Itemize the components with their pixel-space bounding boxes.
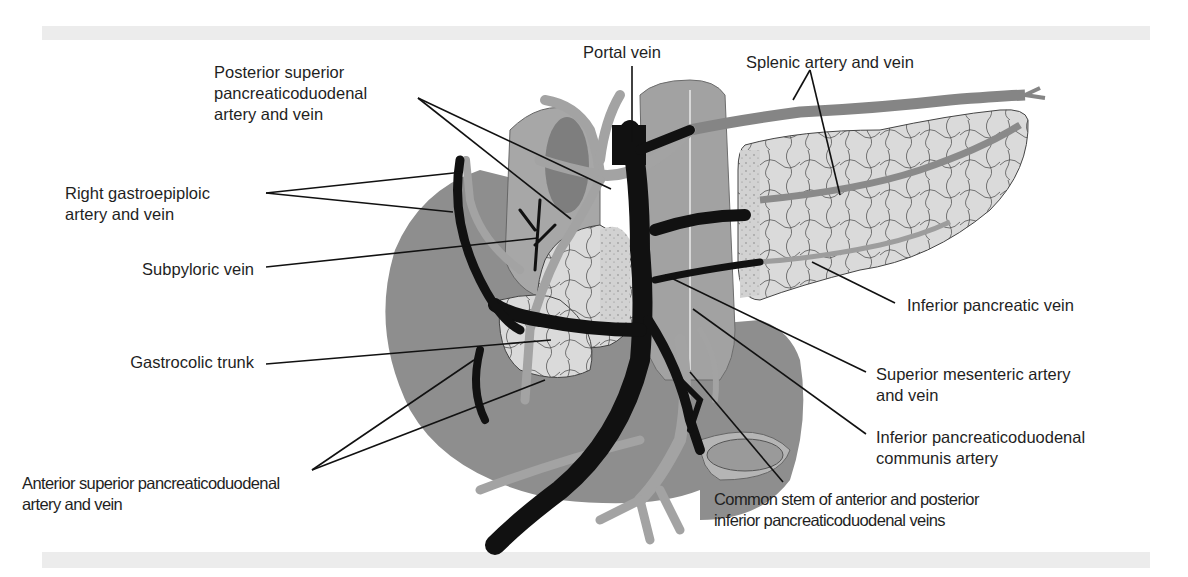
label-common-stem: Common stem of anterior and posterior in… <box>714 489 979 531</box>
label-gastrocolic-trunk: Gastrocolic trunk <box>90 352 254 373</box>
label-portal-vein: Portal vein <box>583 42 661 63</box>
label-right-gastroepiploic: Right gastroepiploic artery and vein <box>65 183 210 225</box>
pancreas-shape <box>738 110 1028 300</box>
label-posterior-superior-pd: Posterior superior pancreaticoduodenal a… <box>214 62 367 125</box>
label-inferior-pd-communis: Inferior pancreaticoduodenal communis ar… <box>876 427 1085 469</box>
label-sma-smv: Superior mesenteric artery and vein <box>876 364 1070 406</box>
label-subpyloric-vein: Subpyloric vein <box>110 259 254 280</box>
label-anterior-superior-pd: Anterior superior pancreaticoduodenal ar… <box>22 473 280 515</box>
label-splenic-artery-vein: Splenic artery and vein <box>746 52 914 73</box>
label-inferior-pancreatic-vein: Inferior pancreatic vein <box>907 295 1074 316</box>
